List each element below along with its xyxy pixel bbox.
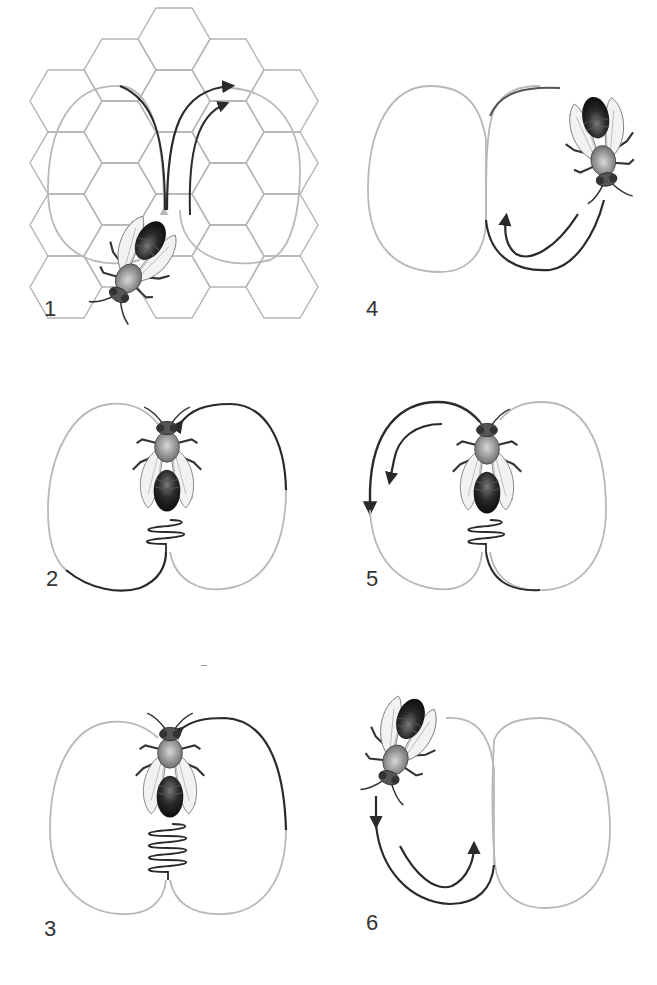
panel-6: 6 [340, 680, 640, 980]
panel-number: 4 [366, 298, 378, 320]
bee-illustration [133, 407, 201, 512]
return-arrow [390, 424, 442, 480]
dance-path-right-loop-faded [170, 830, 286, 914]
panel-3-drawing [30, 680, 330, 980]
panel-number: 3 [44, 918, 56, 940]
dance-path-left-loop-faded [50, 722, 166, 915]
dance-path-left-top-faded [446, 718, 494, 865]
dance-path-right-loop-active [486, 200, 604, 270]
panel-number: 6 [366, 912, 378, 934]
dance-path-left-loop-faded [370, 510, 482, 589]
dance-path-left-loop [368, 86, 486, 272]
dance-path-right-loop-active [180, 404, 286, 490]
bee-illustration [350, 687, 450, 809]
panel-number: 2 [46, 568, 58, 590]
panel-6-drawing [340, 680, 640, 980]
panel-number: 1 [44, 298, 56, 320]
panel-2: 2 [30, 380, 330, 680]
dance-path-right-loop-faded [493, 718, 610, 908]
waggle-arrow-right [167, 86, 230, 210]
dance-path-top-arc [490, 88, 560, 116]
panel-4: 4 [350, 50, 650, 350]
dance-path-right-loop-active [180, 718, 286, 830]
waggle-run-long [149, 824, 187, 880]
dance-path-right-loop-faded [486, 86, 540, 220]
honeycomb [30, 8, 318, 318]
panel-1-drawing [30, 50, 330, 350]
waggle-run [147, 520, 185, 552]
waggle-run [468, 520, 504, 552]
panel-1: 1 [30, 50, 330, 350]
bee-illustration [558, 91, 644, 206]
waggle-arrow-left [120, 86, 165, 210]
bee-illustration [453, 409, 521, 513]
panel-4-drawing [350, 50, 650, 350]
panel-2-drawing [30, 380, 330, 680]
dance-path-left-bottom-active [376, 824, 494, 904]
dance-path-right-loop [180, 88, 300, 263]
panel-number: 5 [366, 568, 378, 590]
stray-mark [201, 665, 207, 666]
return-arrow [505, 214, 578, 256]
panel-5: 5 [350, 380, 650, 680]
bee-illustration [79, 205, 190, 330]
panel-3: 3 [30, 680, 330, 980]
dance-path-left-loop-active [66, 552, 166, 591]
return-arrow [400, 846, 474, 887]
panel-5-drawing [350, 380, 650, 680]
